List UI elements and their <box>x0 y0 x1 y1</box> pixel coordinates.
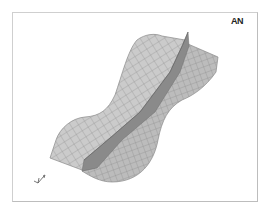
surface-plot <box>0 0 272 208</box>
xyz-triad-icon <box>34 175 45 183</box>
